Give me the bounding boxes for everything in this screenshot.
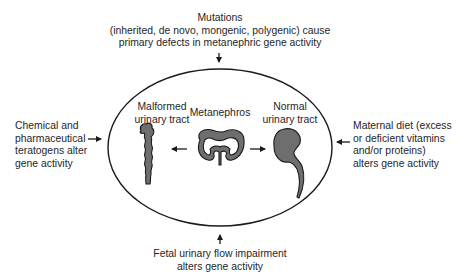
normal-line-2: urinary tract — [250, 114, 330, 127]
fetal-flow-line-1: Fetal urinary flow impairment — [120, 248, 320, 261]
teratogens-line-3: teratogens alter — [15, 145, 87, 158]
metanephros-label: Metanephros — [180, 107, 260, 120]
fetal-flow-line-2: alters gene activity — [120, 261, 320, 274]
normal-line-1: Normal — [250, 101, 330, 114]
teratogens-factor-label: Chemical and pharmaceutical teratogens a… — [15, 120, 87, 170]
metanephros-line-1: Metanephros — [180, 107, 260, 120]
mutations-detail-line-1: (inherited, de novo, mongenic, polygenic… — [80, 25, 360, 38]
teratogens-line-2: pharmaceutical — [15, 133, 87, 146]
fetal-flow-factor-label: Fetal urinary flow impairment alters gen… — [120, 248, 320, 273]
normal-kidney-icon — [274, 129, 304, 198]
malformed-urinary-tract-icon — [140, 123, 154, 184]
teratogens-line-1: Chemical and — [15, 120, 87, 133]
teratogens-line-4: gene activity — [15, 158, 87, 171]
maternal-diet-line-3: and/or proteins) — [353, 145, 452, 158]
maternal-diet-line-4: alters gene activity — [353, 158, 452, 171]
mutations-title: Mutations — [80, 12, 360, 25]
maternal-diet-factor-label: Maternal diet (excess or deficient vitam… — [353, 120, 452, 170]
normal-urinary-tract-label: Normal urinary tract — [250, 101, 330, 126]
maternal-diet-line-2: or deficient vitamins — [353, 133, 452, 146]
mutations-factor-label: Mutations (inherited, de novo, mongenic,… — [80, 12, 360, 50]
maternal-diet-line-1: Maternal diet (excess — [353, 120, 452, 133]
metanephros-icon — [198, 130, 244, 165]
mutations-detail-line-2: primary defects in metanephric gene acti… — [80, 37, 360, 50]
